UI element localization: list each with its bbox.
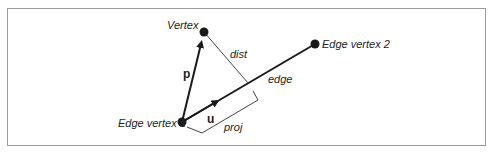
vertex-point: [200, 28, 209, 37]
proj-label: proj: [223, 121, 243, 133]
u-label: u: [207, 112, 214, 126]
edge-vertex-1-label: Edge vertex 1: [118, 117, 186, 129]
dist-label: dist: [230, 48, 248, 60]
distance-diagram: Vertex Edge vertex 1 Edge vertex 2 p u d…: [0, 0, 493, 153]
vertex-label: Vertex: [167, 19, 199, 31]
frame: [8, 9, 486, 146]
p-vector: [182, 44, 201, 122]
edge-label: edge: [268, 73, 292, 85]
edge-vertex-2-point: [311, 40, 320, 49]
p-label: p: [183, 67, 190, 81]
edge-vertex-2-label: Edge vertex 2: [322, 38, 390, 50]
